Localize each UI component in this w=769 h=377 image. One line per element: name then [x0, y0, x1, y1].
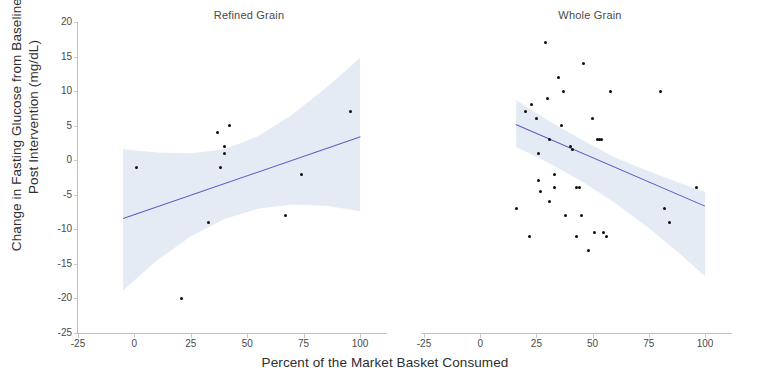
- data-point: [562, 90, 565, 93]
- data-point: [609, 90, 612, 93]
- data-point: [668, 221, 671, 224]
- data-point: [659, 90, 662, 93]
- scatter-plot-figure: Change in Fasting Glucose from Baseline …: [0, 0, 769, 377]
- data-point: [553, 173, 556, 176]
- data-point: [546, 97, 549, 100]
- data-point: [605, 235, 608, 238]
- x-axis-label: Percent of the Market Basket Consumed: [205, 355, 565, 370]
- data-point: [580, 214, 583, 217]
- data-point: [537, 152, 540, 155]
- data-point: [587, 249, 590, 252]
- data-point: [560, 124, 563, 127]
- confidence-band: [0, 0, 769, 377]
- data-point: [528, 235, 531, 238]
- data-point: [515, 207, 518, 210]
